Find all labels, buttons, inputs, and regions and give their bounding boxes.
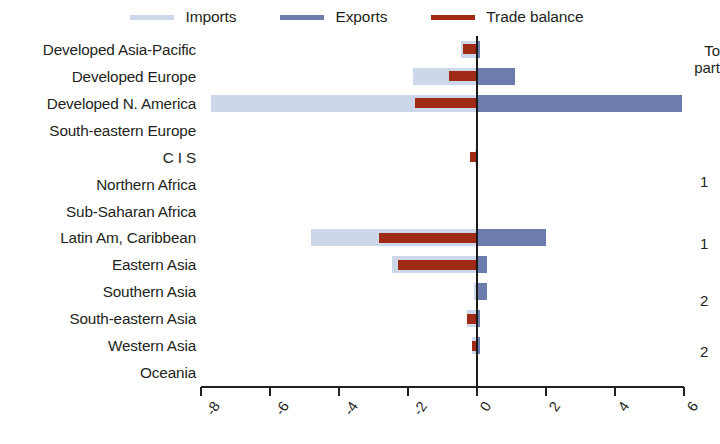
x-axis-tick-label: -4 (342, 399, 361, 418)
cropped-side-annotation: To part (686, 42, 720, 76)
x-axis-tick-label: 6 (684, 399, 701, 414)
legend-item-imports: Imports (130, 9, 236, 25)
cropped-side-number: 2 (700, 344, 714, 359)
x-axis-tick-label: 0 (477, 399, 494, 414)
bar-trade-balance (415, 98, 477, 108)
bar-trade-balance (463, 44, 477, 54)
bar-exports (477, 229, 546, 246)
legend-item-exports: Exports (280, 9, 387, 25)
bar-group (201, 144, 684, 171)
cropped-side-number: 2 (700, 293, 714, 308)
legend-label: Exports (335, 9, 387, 25)
category-label: Sub-Saharan Africa (66, 204, 196, 219)
x-axis-tick (683, 387, 685, 396)
bar-group (201, 36, 684, 63)
cropped-side-annotation-line2: part (686, 59, 720, 76)
category-label: Latin Am, Caribbean (60, 230, 196, 245)
bar-group (201, 359, 684, 386)
bar-group (201, 90, 684, 117)
bar-trade-balance (398, 260, 477, 270)
bar-group (201, 332, 684, 359)
x-axis-tick-label: 4 (615, 399, 632, 414)
x-axis-tick (269, 387, 271, 396)
bar-exports (477, 95, 682, 112)
category-label: Developed Asia-Pacific (43, 42, 196, 57)
legend-label: Imports (185, 9, 236, 25)
cropped-side-annotation-line1: To (686, 42, 720, 59)
category-label: Developed Europe (72, 69, 196, 84)
category-label: C I S (163, 150, 196, 165)
legend-label: Trade balance (486, 9, 583, 25)
chart-plot-area: -8-6-4-20246 (201, 36, 684, 386)
bar-group (201, 305, 684, 332)
category-label: Oceania (140, 365, 196, 380)
category-label: South-eastern Asia (69, 311, 196, 326)
x-axis-tick-label: -6 (273, 399, 292, 418)
bar-group (201, 63, 684, 90)
x-axis-tick (545, 387, 547, 396)
category-label: South-eastern Europe (49, 123, 196, 138)
bar-trade-balance (449, 71, 477, 81)
line-swatch-icon (130, 15, 174, 20)
bar-exports (477, 256, 487, 273)
x-axis-tick-label: -2 (411, 399, 430, 418)
x-axis-tick (407, 387, 409, 396)
category-label: Northern Africa (96, 177, 196, 192)
x-axis-tick (476, 387, 478, 396)
x-axis-tick (200, 387, 202, 396)
bar-trade-balance (379, 233, 477, 243)
x-axis-tick (338, 387, 340, 396)
bar-group (201, 117, 684, 144)
x-axis-tick-label: 2 (546, 399, 563, 414)
x-axis-tick (614, 387, 616, 396)
category-label: Eastern Asia (112, 257, 196, 272)
bar-group (201, 198, 684, 225)
bar-exports (477, 68, 515, 85)
bar-group (201, 171, 684, 198)
chart-legend: Imports Exports Trade balance (0, 4, 714, 30)
cropped-side-number: 1 (700, 174, 714, 189)
bar-exports (477, 283, 487, 300)
legend-item-trade-balance: Trade balance (431, 9, 583, 25)
category-label: Developed N. America (47, 96, 196, 111)
bar-group (201, 278, 684, 305)
category-label: Western Asia (108, 338, 196, 353)
x-axis-tick-label: -8 (204, 399, 223, 418)
x-axis-line (201, 386, 684, 388)
bar-group (201, 251, 684, 278)
category-label: Southern Asia (103, 284, 196, 299)
bar-group (201, 224, 684, 251)
line-swatch-icon (431, 15, 475, 20)
zero-axis-line (476, 36, 478, 386)
cropped-side-number: 1 (700, 236, 714, 251)
line-swatch-icon (280, 15, 324, 20)
